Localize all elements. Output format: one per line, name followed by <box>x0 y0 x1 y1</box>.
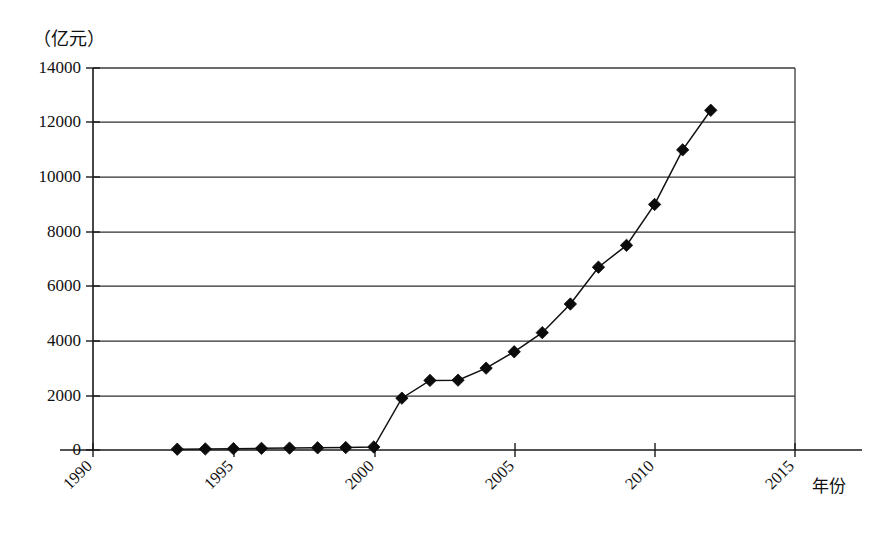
x-tick-label-2010: 2010 <box>621 456 658 493</box>
x-tick-label-2005: 2005 <box>481 456 518 493</box>
data-point-2011 <box>676 144 688 156</box>
data-point-2000 <box>368 441 380 453</box>
x-tick-label-1990: 1990 <box>59 456 96 493</box>
y-tick-label-10000: 10000 <box>39 167 82 186</box>
y-tick-label-12000: 12000 <box>39 112 82 131</box>
x-tick-label-1995: 1995 <box>200 456 237 493</box>
series-line <box>177 110 711 449</box>
data-point-2004 <box>480 362 492 374</box>
y-tick-label-4000: 4000 <box>47 331 81 350</box>
data-point-1994 <box>199 443 211 455</box>
y-tick-label-8000: 8000 <box>47 222 81 241</box>
gridlines <box>93 68 795 396</box>
data-point-1993 <box>171 443 183 455</box>
data-point-2003 <box>452 374 464 386</box>
data-point-1996 <box>255 442 267 454</box>
data-point-2005 <box>508 346 520 358</box>
data-point-2008 <box>592 261 604 273</box>
y-tick-label-14000: 14000 <box>39 58 82 77</box>
data-point-1998 <box>311 442 323 454</box>
x-tick-label-2015: 2015 <box>761 456 798 493</box>
data-point-1999 <box>340 441 352 453</box>
line-chart: （亿元） 14000 <box>0 0 882 536</box>
x-axis-title: 年份 <box>812 477 846 496</box>
data-point-2002 <box>424 374 436 386</box>
data-point-1997 <box>283 442 295 454</box>
y-tick-label-2000: 2000 <box>47 386 81 405</box>
data-point-2012 <box>705 104 717 116</box>
x-tick-labels: 1990 1995 2000 2005 2010 2015 <box>59 456 798 493</box>
y-tick-label-0: 0 <box>73 440 82 459</box>
data-point-2001 <box>396 392 408 404</box>
y-tick-label-6000: 6000 <box>47 276 81 295</box>
y-axis-unit-label: （亿元） <box>33 29 105 49</box>
data-point-2010 <box>648 198 660 210</box>
chart-figure: （亿元） 14000 <box>0 0 882 536</box>
series-markers <box>171 104 717 455</box>
data-point-1995 <box>227 442 239 454</box>
x-tick-label-2000: 2000 <box>341 456 378 493</box>
data-point-2009 <box>620 239 632 251</box>
y-tick-labels: 14000 12000 10000 8000 6000 4000 2000 0 <box>39 58 82 459</box>
